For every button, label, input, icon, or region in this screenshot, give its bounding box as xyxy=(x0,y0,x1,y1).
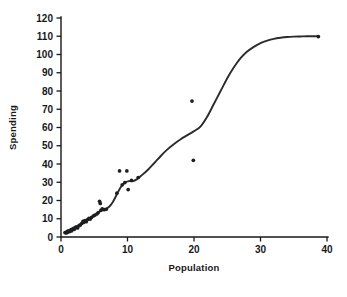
x-tick-label: 0 xyxy=(58,244,64,255)
y-tick-label: 80 xyxy=(42,86,54,97)
data-point xyxy=(317,35,321,39)
y-tick-label: 0 xyxy=(47,232,53,243)
x-tick-label: 30 xyxy=(255,244,267,255)
data-point xyxy=(130,179,134,183)
x-axis-title: Population xyxy=(168,262,219,273)
y-tick-label: 70 xyxy=(42,104,54,115)
y-tick-label: 20 xyxy=(42,195,54,206)
y-tick-label: 120 xyxy=(36,13,53,24)
data-point xyxy=(104,207,108,211)
x-tick-label: 40 xyxy=(321,244,333,255)
data-point xyxy=(125,169,129,173)
y-tick-label: 40 xyxy=(42,159,54,170)
data-point xyxy=(126,188,130,192)
data-point xyxy=(136,176,140,180)
y-tick-label: 90 xyxy=(42,67,54,78)
x-tick-label: 20 xyxy=(188,244,200,255)
data-point xyxy=(190,99,194,103)
data-point xyxy=(115,191,119,195)
y-axis-title: Spending xyxy=(7,105,18,150)
chart-figure: 0102030405060708090100110120 010203040 P… xyxy=(0,0,347,297)
y-tick-label: 10 xyxy=(42,213,54,224)
y-tick-label: 110 xyxy=(37,31,54,42)
data-point xyxy=(98,202,102,206)
data-point xyxy=(123,181,127,185)
data-point xyxy=(118,169,122,173)
y-tick-label: 60 xyxy=(42,122,54,133)
y-tick-label: 50 xyxy=(42,140,54,151)
y-tick-label: 100 xyxy=(36,49,53,60)
data-point xyxy=(191,159,195,163)
x-tick-label: 10 xyxy=(122,244,134,255)
scatter-plot-svg: 0102030405060708090100110120 010203040 P… xyxy=(0,0,347,297)
y-tick-label: 30 xyxy=(42,177,54,188)
